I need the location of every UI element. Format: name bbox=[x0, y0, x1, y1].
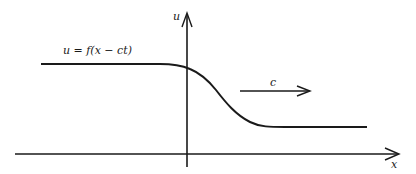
x-axis bbox=[15, 148, 399, 160]
wave-profile-curve bbox=[41, 64, 367, 127]
y-axis bbox=[182, 13, 192, 167]
wave-equation-label: u = f(x − ct) bbox=[63, 44, 132, 57]
y-axis-label: u bbox=[173, 10, 180, 23]
velocity-label: c bbox=[270, 76, 276, 89]
x-axis-label: x bbox=[391, 158, 398, 171]
traveling-wave-diagram: x u u = f(x − ct) c bbox=[0, 0, 416, 174]
